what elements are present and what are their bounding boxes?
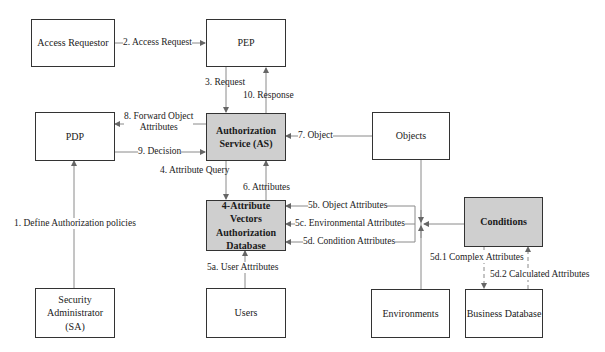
pdp-node: PDP: [35, 112, 115, 161]
business-database-node: Business Database: [465, 289, 543, 338]
edge-label-object-attributes: 5b. Object Attributes: [308, 200, 387, 211]
edge-label-calculated-attributes: 5d.2 Calculated Attributes: [490, 269, 589, 280]
users-node: Users: [206, 288, 286, 338]
objects-label: Objects: [396, 129, 427, 143]
pdp-label: PDP: [66, 130, 84, 144]
db-label-line1: 4-Attribute Vectors: [207, 199, 285, 226]
edge-label-forward-object-attributes: 8. Forward Object Attributes: [124, 111, 193, 134]
edge-label-condition-attributes: 5d. Condition Attributes: [303, 236, 395, 247]
conditions-label: Conditions: [480, 215, 527, 229]
edge-label-user-attributes: 5a. User Attributes: [207, 262, 279, 273]
edge-label-attribute-query: 4. Attribute Query: [160, 165, 229, 176]
edge-label-request: 3. Request: [205, 77, 245, 88]
pep-label: PEP: [237, 36, 254, 50]
business-db-label: Business Database: [467, 307, 542, 321]
edge-label-8-line1: 8. Forward Object: [124, 111, 193, 122]
access-requestor-node: Access Requestor: [31, 19, 115, 67]
edge-label-8-line2: Attributes: [124, 122, 193, 133]
edge-label-response: 10. Response: [243, 90, 294, 101]
environments-node: Environments: [371, 289, 450, 338]
edge-label-define-policies: 1. Define Authorization policies: [14, 218, 136, 229]
sa-label-line1: Security: [58, 293, 91, 307]
conditions-node: Conditions: [464, 197, 543, 247]
edge-label-object: 7. Object: [298, 130, 333, 141]
authorization-service-node: Authorization Service (AS): [206, 113, 286, 161]
access-requestor-label: Access Requestor: [37, 36, 108, 50]
sa-label-line2: Administrator (SA): [36, 306, 114, 333]
objects-node: Objects: [372, 112, 450, 160]
environments-label: Environments: [382, 307, 438, 321]
edge-label-attributes: 6. Attributes: [243, 182, 290, 193]
users-label: Users: [235, 306, 258, 320]
as-label-line1: Authorization: [216, 124, 276, 138]
edge-label-access-request: 2. Access Request: [123, 37, 192, 48]
attribute-database-node: 4-Attribute Vectors Authorization Databa…: [206, 200, 286, 251]
db-label-line3: Database: [226, 239, 265, 253]
edge-label-environmental-attributes: 5c. Environmental Attributes: [295, 218, 405, 229]
pep-node: PEP: [206, 19, 286, 67]
edge-label-decision: 9. Decision: [138, 146, 181, 157]
db-label-line2: Authorization: [216, 226, 276, 240]
edge-label-complex-attributes: 5d.1 Complex Attributes: [430, 252, 524, 263]
as-label-line2: Service (AS): [219, 137, 272, 151]
security-administrator-node: Security Administrator (SA): [35, 288, 115, 338]
